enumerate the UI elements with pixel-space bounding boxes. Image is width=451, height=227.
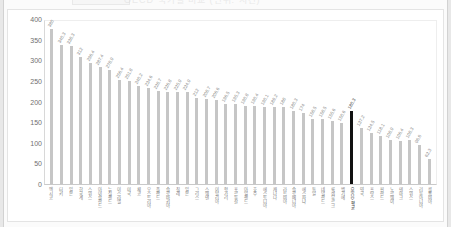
x-axis-category-label: 아이슬란드 — [97, 187, 102, 207]
bar: 62.3 — [428, 159, 431, 184]
bar-slot: 188 — [279, 21, 289, 184]
bar-slot: 180.3 — [289, 21, 299, 184]
y-axis-tick: 350 — [16, 37, 42, 45]
bar-slot: 158.5 — [318, 21, 328, 184]
bar-value-label: 190.8 — [240, 93, 250, 105]
x-axis-category-label: 네덜란드 — [320, 187, 325, 203]
bar-slot: 338.3 — [66, 21, 76, 184]
x-axis-category-label: 덴마크 — [398, 187, 403, 199]
chart-title-ghost: OECD 국가별 비교 (단위: 시간) — [124, 0, 434, 7]
bar: 150.6 — [340, 123, 343, 184]
bar: 224.9 — [186, 92, 189, 184]
bar-value-label: 206.6 — [211, 86, 221, 98]
bar-value-label: 234.6 — [143, 75, 153, 87]
bar: 158.5 — [321, 119, 324, 184]
bar-slot: 106.4 — [395, 21, 405, 184]
bar: 206.6 — [215, 100, 218, 184]
bar: 190.8 — [244, 106, 247, 184]
bar: 137.2 — [360, 128, 363, 184]
bar-value-label: 155.6 — [327, 107, 337, 119]
bar-slot: 224.9 — [182, 21, 192, 184]
x-axis-category-label: 멕시코 — [48, 187, 53, 199]
bar: 155.6 — [331, 121, 334, 184]
x-axis-category-label: 체코 — [136, 187, 141, 195]
bar: 174 — [302, 113, 305, 184]
bar-slot: 228.7 — [153, 21, 163, 184]
bar-value-label: 225.9 — [172, 78, 182, 90]
x-axis-category-label: 프랑스 — [369, 187, 374, 199]
bar-slot: 278.9 — [105, 21, 115, 184]
x-axis-label-slot: 미국 — [124, 186, 134, 220]
bar: 338.3 — [70, 46, 73, 184]
plot-area: 380340.3338.3312296.4287.4278.9256.4251.… — [44, 20, 437, 185]
bar: 106.4 — [399, 141, 402, 184]
bar: 189.2 — [273, 107, 276, 184]
bar-value-label: 137.2 — [356, 115, 366, 127]
x-axis-category-label: 호주 — [252, 187, 257, 195]
x-axis-label-slot: 멕시코 — [46, 186, 56, 220]
bar-slot: 212 — [192, 21, 202, 184]
x-axis-label-slot: 슬로바키아 — [163, 186, 173, 220]
page-edge-left — [0, 0, 4, 227]
x-axis-label-slot: 스위스 — [406, 186, 416, 220]
x-axis-category-label: 콜롬비아 — [427, 187, 432, 203]
bar: 124.5 — [370, 133, 373, 184]
x-axis-label-slot: 에스파냐 — [299, 186, 309, 220]
x-axis-category-label: 핀란드 — [379, 187, 384, 199]
bar-value-label: 251.8 — [124, 68, 134, 80]
bar: 96.6 — [418, 145, 421, 184]
x-axis-category-label: 일본 — [68, 187, 73, 195]
x-axis-category-label: 이스라엘 — [116, 187, 121, 203]
bar-slot: 312 — [76, 21, 86, 184]
x-axis-label-slot: 아일랜드 — [240, 186, 250, 220]
x-axis-category-label: 한국계 — [78, 187, 83, 199]
bar-value-label: 106.4 — [395, 127, 405, 139]
bar: 225.9 — [176, 92, 179, 184]
bar-highlighted: 180.3 — [350, 111, 353, 184]
x-axis-category-label: 에스파냐 — [301, 187, 306, 203]
bar-slot: 206.6 — [211, 21, 221, 184]
x-axis-label-slot: 그리스 — [192, 186, 202, 220]
bar-slot: 380 — [47, 21, 57, 184]
x-axis-category-label: 아일랜드 — [243, 187, 248, 203]
plot-wrapper: 400350300250200150100500 380340.3338.331… — [8, 10, 443, 221]
bar: 228.7 — [157, 91, 160, 184]
bar-value-label: 158.5 — [308, 106, 318, 118]
bar-value-label: 124.5 — [366, 120, 376, 132]
x-axis-label-slot: 일본 — [182, 186, 192, 220]
x-axis-category-label: 터키 — [58, 187, 63, 195]
x-axis-label-slot: 노르웨이 — [386, 186, 396, 220]
bar: 226.8 — [166, 92, 169, 184]
x-axis-category-label: 스위스 — [87, 187, 92, 199]
x-axis-label-slot: 이탈리아 — [211, 186, 221, 220]
x-axis-category-label: 룩셈부르크 — [330, 187, 335, 207]
x-axis-label-slot: 아이슬란드 — [95, 186, 105, 220]
bar: 212 — [195, 98, 198, 184]
bar-value-label: 180.3 — [346, 97, 356, 109]
x-axis-label-slot: 프랑스 — [367, 186, 377, 220]
x-axis-category-label: 스웨덴 — [204, 187, 209, 199]
bar-value-label: 188 — [279, 97, 287, 106]
bar: 190.4 — [253, 106, 256, 184]
bar: 108.9 — [389, 140, 392, 184]
bar-slot: 234.6 — [144, 21, 154, 184]
bar-slot: 208.7 — [202, 21, 212, 184]
x-axis-label-slot: 호주 — [250, 186, 260, 220]
bar-slot: 118.1 — [376, 21, 386, 184]
x-axis-category-label: OECD 평균 — [350, 187, 355, 209]
x-axis-label-slot: 뉴질랜드 — [104, 186, 114, 220]
bar: 190.1 — [263, 107, 266, 184]
bar-value-label: 190.4 — [250, 93, 260, 105]
x-axis-label-slot: 한국계 — [75, 186, 85, 220]
x-axis-label-slot: 이스라엘 — [114, 186, 124, 220]
x-axis-label-slot: 폴란드 — [153, 186, 163, 220]
bar: 108.3 — [408, 140, 411, 184]
y-axis-tick: 250 — [16, 78, 42, 86]
x-axis-category-label: 벨기에 — [340, 187, 345, 199]
x-axis-label-slot: 체코 — [133, 186, 143, 220]
bar: 251.8 — [128, 81, 131, 184]
bar-slot: 180.3 — [347, 21, 357, 184]
x-axis-category-label: 일본 — [184, 187, 189, 195]
bar: 234.6 — [147, 88, 150, 184]
bar-value-label: 108.3 — [404, 126, 414, 138]
